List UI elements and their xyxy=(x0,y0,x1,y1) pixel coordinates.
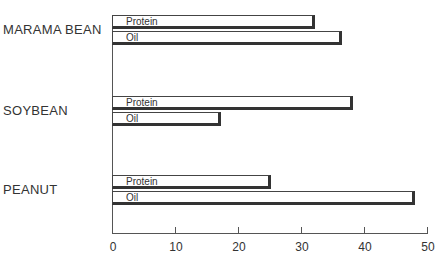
x-tick-label: 50 xyxy=(421,240,434,254)
bar-soybean-protein: Protein xyxy=(112,96,353,110)
bar-label-oil: Oil xyxy=(126,32,138,44)
x-axis xyxy=(112,233,428,234)
x-tick xyxy=(301,227,302,234)
x-tick-label: 10 xyxy=(169,240,182,254)
x-tick xyxy=(238,227,239,234)
x-tick-label: 40 xyxy=(358,240,371,254)
bar-peanut-oil: Oil xyxy=(112,191,415,205)
category-label-soybean: SOYBEAN xyxy=(3,103,68,118)
bar-label-protein: Protein xyxy=(126,16,158,28)
x-tick xyxy=(175,227,176,234)
bar-label-oil: Oil xyxy=(126,113,138,125)
bar-label-protein: Protein xyxy=(126,176,158,188)
x-tick-label: 20 xyxy=(232,240,245,254)
x-tick-label: 30 xyxy=(295,240,308,254)
bar-soybean-oil: Oil xyxy=(112,112,221,126)
x-tick-label: 0 xyxy=(110,240,117,254)
bar-label-oil: Oil xyxy=(126,192,138,204)
bar-label-protein: Protein xyxy=(126,97,158,109)
bar-marama-oil: Oil xyxy=(112,31,342,45)
x-tick xyxy=(364,227,365,234)
category-label-marama-bean: MARAMA BEAN xyxy=(3,22,102,37)
category-label-peanut: PEANUT xyxy=(3,182,58,197)
bar-marama-protein: Protein xyxy=(112,15,315,29)
bar-peanut-protein: Protein xyxy=(112,175,271,189)
x-tick xyxy=(427,227,428,234)
bar-chart: MARAMA BEAN Protein Oil SOYBEAN Protein … xyxy=(0,0,448,265)
